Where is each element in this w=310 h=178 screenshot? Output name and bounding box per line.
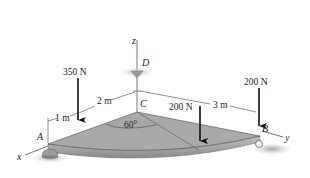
dimension-3m-label: 3 m bbox=[213, 100, 228, 110]
dimension-3m: 3 m bbox=[140, 91, 256, 112]
point-D-label: D bbox=[141, 57, 150, 68]
point-C-label: C bbox=[140, 98, 147, 109]
force-200N-middle-label: 200 N bbox=[169, 102, 193, 112]
x-axis-label: x bbox=[16, 151, 22, 162]
dimension-2m-label: 2 m bbox=[97, 96, 112, 106]
z-axis-label: z bbox=[131, 35, 136, 46]
angle-label: 60° bbox=[124, 120, 138, 130]
dimension-2m: 2 m bbox=[79, 92, 135, 113]
force-200N-B-label: 200 N bbox=[244, 77, 268, 87]
plate-statics-diagram: z x y 60° C D 1 m 2 m bbox=[0, 0, 310, 178]
point-B-label: B bbox=[262, 123, 268, 134]
y-axis-label: y bbox=[284, 132, 290, 143]
dimension-1m-label: 1 m bbox=[55, 113, 70, 123]
force-200N-B: 200 N bbox=[244, 77, 268, 126]
point-A-label: A bbox=[36, 131, 44, 142]
force-350N-label: 350 N bbox=[63, 67, 87, 77]
